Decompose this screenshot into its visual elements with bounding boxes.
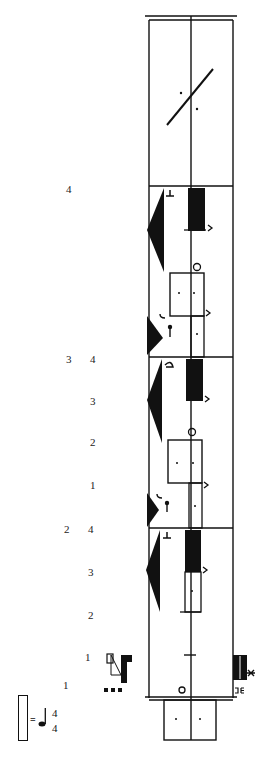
measure-2 xyxy=(146,530,207,693)
beat-number: 4 xyxy=(90,354,96,365)
step-box-icon xyxy=(168,440,202,483)
step-box-icon xyxy=(185,572,201,612)
hold-circle-icon xyxy=(194,264,201,271)
hook-icon xyxy=(157,494,162,498)
starting-position xyxy=(164,700,216,740)
arm-gesture-triangle-icon xyxy=(147,493,159,527)
support-block-icon xyxy=(185,530,201,572)
arm-gesture-triangle-icon xyxy=(146,530,160,612)
measure-number: 3 xyxy=(66,354,72,365)
quarter-note-icon xyxy=(38,706,50,728)
chevron-icon xyxy=(208,225,212,231)
hold-circle-icon xyxy=(179,687,185,693)
chevron-icon xyxy=(204,482,208,488)
arm-gesture-triangle-icon xyxy=(147,316,163,355)
time-signature-top: 4 xyxy=(52,707,58,719)
chevron-icon xyxy=(203,567,207,573)
support-block-icon xyxy=(186,359,203,401)
repeat-sign-icon xyxy=(167,69,213,125)
measure-3 xyxy=(147,359,209,528)
labanotation-score xyxy=(0,0,275,777)
chevron-icon xyxy=(205,396,209,402)
beat-number: 3 xyxy=(88,567,94,578)
step-box-icon xyxy=(191,316,204,357)
beat-number: 3 xyxy=(90,396,96,407)
measure-4 xyxy=(147,188,212,357)
beat-number: 2 xyxy=(88,610,94,621)
support-block-icon xyxy=(188,188,205,231)
hook-icon xyxy=(165,362,173,367)
beat-number: 4 xyxy=(88,524,94,535)
beat-number: 1 xyxy=(85,652,91,663)
hook-icon xyxy=(160,314,165,318)
hook-icon xyxy=(163,532,171,538)
beat-number: 1 xyxy=(90,480,96,491)
beat-number: 2 xyxy=(90,437,96,448)
legend-equals: = xyxy=(30,714,36,725)
step-box-icon xyxy=(170,273,204,316)
chevron-icon xyxy=(206,310,210,316)
left-presign-icon xyxy=(104,654,132,692)
measure-box-legend-icon xyxy=(18,695,28,741)
measure-number: 2 xyxy=(64,524,70,535)
hook-icon xyxy=(166,190,174,196)
measure-number: 4 xyxy=(66,184,72,195)
hold-circle-icon xyxy=(189,429,196,436)
right-presign-icon xyxy=(233,655,255,693)
time-signature-bottom: 4 xyxy=(52,722,58,734)
beat-number: 1 xyxy=(63,680,69,691)
